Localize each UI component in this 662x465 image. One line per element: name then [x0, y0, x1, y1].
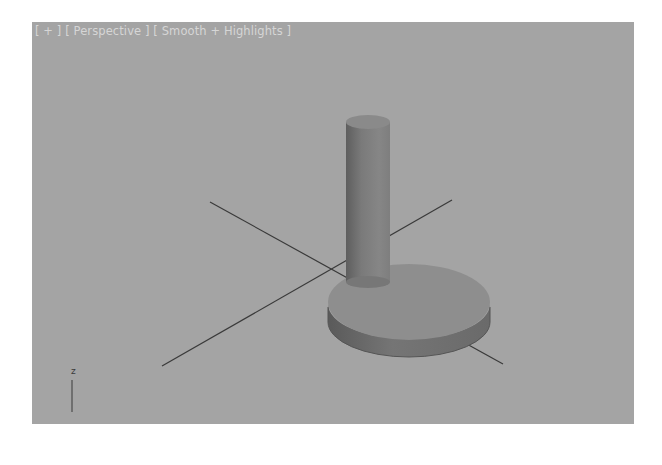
perspective-viewport[interactable]: [ + ] [ Perspective ] [ Smooth + Highlig…: [32, 22, 634, 424]
scene-canvas: z: [32, 22, 634, 424]
cylinder-pillar[interactable]: [346, 115, 390, 288]
axis-tripod: z: [71, 366, 76, 412]
axis-tripod-z-label: z: [71, 366, 76, 376]
